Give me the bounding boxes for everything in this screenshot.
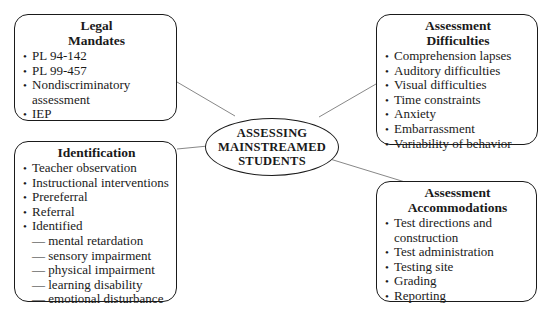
central-topic-line: MAINSTREAMED	[218, 140, 326, 154]
central-topic-line: ASSESSING	[237, 126, 308, 140]
central-topic-line: STUDENTS	[238, 154, 306, 168]
list-item: Prereferral	[23, 190, 170, 205]
list-item: Testing site	[385, 260, 530, 275]
assessment-difficulties-title: Assessment Difficulties	[385, 18, 531, 48]
assessment-accommodations-title: Assessment Accommodations	[385, 185, 530, 215]
title-line: Accommodations	[408, 200, 508, 215]
title-line: Legal	[80, 18, 112, 33]
title-line: Difficulties	[427, 33, 490, 48]
identification-title: Identification	[23, 145, 170, 160]
list-item: Test directions andconstruction	[385, 216, 530, 245]
list-item: Visual difficulties	[385, 78, 531, 93]
assessment-difficulties-box: Assessment Difficulties Comprehension la…	[376, 14, 538, 145]
legal-mandates-title: Legal Mandates	[23, 18, 170, 48]
list-item: PL 99-457	[23, 64, 170, 79]
title-line: Assessment	[425, 185, 491, 200]
assessment-accommodations-box: Assessment Accommodations Test direction…	[376, 181, 537, 302]
sub-list-item: — mental retardation	[23, 234, 170, 249]
sub-list-item: — sensory impairment	[23, 249, 170, 264]
connector-assessment-accommodations	[330, 159, 405, 182]
legal-mandates-list: PL 94-142 PL 99-457 Nondiscriminatoryass…	[23, 49, 170, 122]
list-item: Grading	[385, 274, 530, 289]
identification-list: Teacher observation Instructional interv…	[23, 161, 170, 307]
list-item: Anxiety	[385, 107, 531, 122]
sub-list-item: — learning disability	[23, 278, 170, 293]
list-item: IEP	[23, 107, 170, 122]
assessment-difficulties-list: Comprehension lapses Auditory difficulti…	[385, 49, 531, 151]
list-item: Variability of behavior	[385, 137, 531, 152]
list-item: Identified	[23, 219, 170, 234]
list-item: Reporting	[385, 289, 530, 304]
connector-identification	[177, 146, 208, 149]
list-item: Test administration	[385, 245, 530, 260]
sub-list-item: — emotional disturbance	[23, 292, 170, 307]
title-line: Assessment	[425, 18, 491, 33]
central-topic-ellipse: ASSESSING MAINSTREAMED STUDENTS	[205, 118, 339, 176]
connector-legal-mandates	[177, 82, 235, 116]
identification-box: Identification Teacher observation Instr…	[14, 141, 177, 302]
list-item: Auditory difficulties	[385, 64, 531, 79]
list-item: Embarrassment	[385, 122, 531, 137]
list-item: PL 94-142	[23, 49, 170, 64]
list-item: Referral	[23, 205, 170, 220]
list-item: Time constraints	[385, 93, 531, 108]
list-item: Teacher observation	[23, 161, 170, 176]
assessment-accommodations-list: Test directions andconstruction Test adm…	[385, 216, 530, 304]
title-line: Mandates	[68, 33, 125, 48]
list-item: Comprehension lapses	[385, 49, 531, 64]
connector-assessment-difficulties	[319, 84, 376, 117]
list-item: Nondiscriminatoryassessment	[23, 78, 170, 107]
list-item: Instructional interventions	[23, 176, 170, 191]
sub-list-item: — physical impairment	[23, 263, 170, 278]
legal-mandates-box: Legal Mandates PL 94-142 PL 99-457 Nondi…	[14, 14, 177, 121]
